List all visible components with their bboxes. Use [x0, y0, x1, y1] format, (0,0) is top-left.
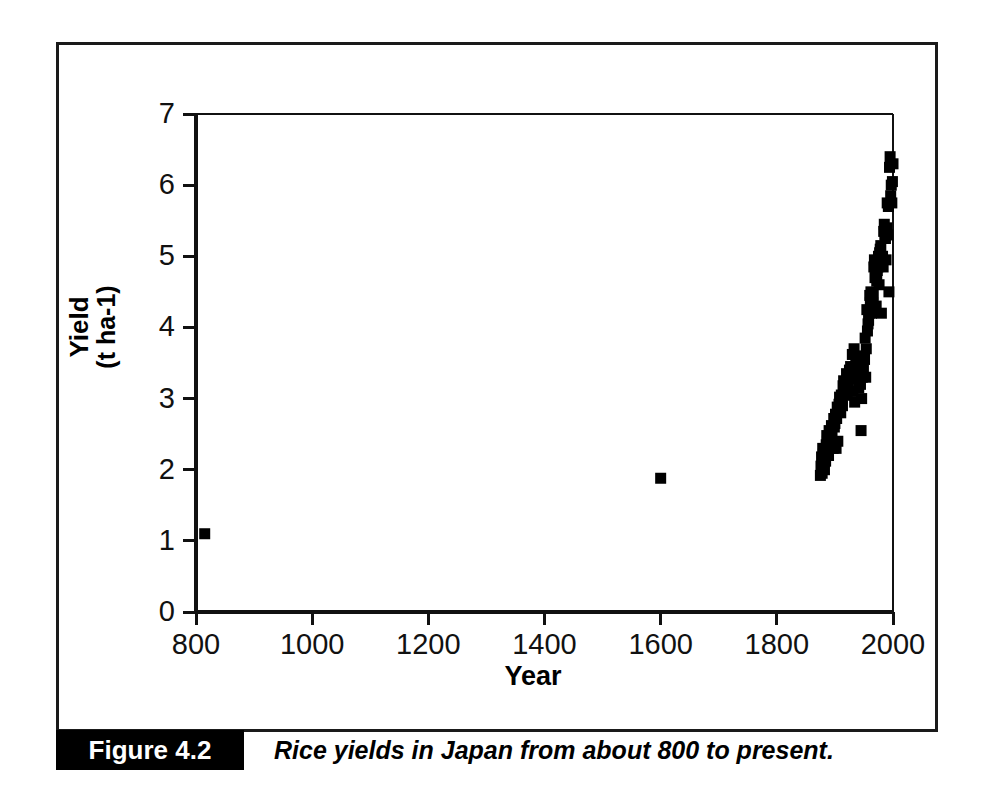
figure-caption-strip: Figure 4.2 Rice yields in Japan from abo… [56, 730, 938, 770]
data-point-marker [886, 197, 897, 208]
x-tick-label: 1800 [717, 630, 837, 659]
data-point-marker [199, 528, 210, 539]
data-markers [199, 151, 898, 539]
data-point-marker [856, 425, 867, 436]
data-point-marker [856, 393, 867, 404]
data-point-marker [837, 400, 848, 411]
data-point-marker [832, 436, 843, 447]
data-point-marker [861, 343, 872, 354]
x-tick-label: 1600 [601, 630, 721, 659]
data-point-marker [888, 158, 899, 169]
x-tick-label: 1200 [368, 630, 488, 659]
data-point-marker [881, 254, 892, 265]
y-axis-title-line1: Yield [65, 227, 93, 427]
y-tick-label: 7 [135, 99, 175, 128]
data-point-marker [883, 286, 894, 297]
x-tick-label: 1000 [252, 630, 372, 659]
x-tick-label: 800 [136, 630, 256, 659]
x-tick-label: 2000 [833, 630, 953, 659]
data-point-marker [868, 290, 879, 301]
scatter-chart: 01234567 800100012001400160018002000 Yea… [0, 0, 988, 794]
y-tick-label: 6 [135, 170, 175, 199]
y-tick-label: 5 [135, 241, 175, 270]
y-axis-title: Yield (t ha-1) [65, 227, 125, 427]
y-axis-title-units: (t ha-1) [93, 227, 120, 427]
data-point-marker [859, 354, 870, 365]
x-tick-label: 1400 [485, 630, 605, 659]
figure-caption-text: Rice yields in Japan from about 800 to p… [274, 730, 834, 770]
data-point-marker [882, 229, 893, 240]
y-tick-label: 3 [135, 384, 175, 413]
data-point-marker [874, 279, 885, 290]
data-point-marker [655, 473, 666, 484]
y-tick-label: 0 [135, 597, 175, 626]
axis-ticks [183, 114, 893, 625]
x-axis-title: Year [473, 661, 593, 692]
data-point-marker [876, 308, 887, 319]
y-tick-label: 2 [135, 455, 175, 484]
data-point-marker [860, 372, 871, 383]
y-tick-label: 4 [135, 312, 175, 341]
data-point-marker [887, 176, 898, 187]
y-tick-label: 1 [135, 526, 175, 555]
figure-number-label: Figure 4.2 [56, 730, 244, 770]
plot-axes [196, 114, 893, 612]
